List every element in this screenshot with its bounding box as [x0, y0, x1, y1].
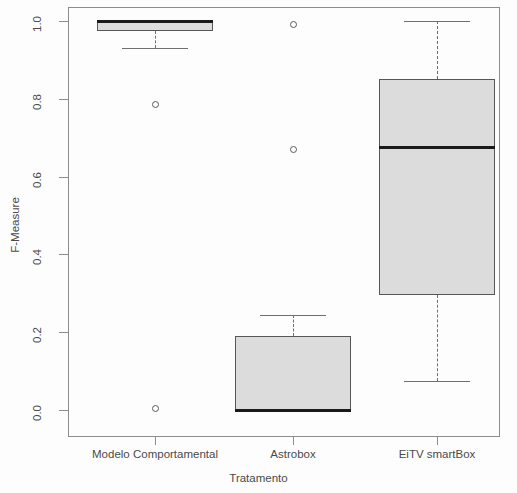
outlier-point [152, 405, 159, 412]
y-axis-tick [59, 254, 68, 255]
x-axis-tick [293, 437, 294, 445]
x-axis-title: Tratamento [0, 472, 517, 484]
boxplot-screenshot: F-Measure 1.00.80.60.40.20.0 Modelo Comp… [0, 0, 517, 493]
upper-whisker-cap [404, 21, 470, 22]
upper-whisker-cap [260, 315, 326, 316]
y-axis-tick-label-text: 0.2 [31, 327, 43, 343]
lower-whisker-cap [404, 381, 470, 382]
y-axis-tick [59, 21, 68, 22]
y-axis-tick-label-text: 0.0 [31, 405, 43, 421]
y-axis-tick [59, 99, 68, 100]
lower-whisker-line [155, 31, 156, 49]
y-axis-tick-label-text: 0.4 [31, 249, 43, 265]
median-line [235, 409, 351, 412]
x-axis-tick [437, 437, 438, 445]
x-axis-tick [155, 437, 156, 445]
y-axis-tick-label: 1.0 [22, 14, 52, 28]
y-axis-tick-label: 0.6 [22, 170, 52, 184]
outlier-point [290, 146, 297, 153]
outlier-point [152, 101, 159, 108]
x-axis-tick-label: Astrobox [270, 448, 315, 460]
outlier-point [290, 21, 297, 28]
y-axis-tick-label: 0.4 [22, 247, 52, 261]
lower-whisker-line [437, 295, 438, 381]
y-axis-tick-label: 0.8 [22, 92, 52, 106]
y-axis-tick [59, 177, 68, 178]
upper-whisker-line [437, 21, 438, 79]
y-axis-tick-label-text: 0.6 [31, 172, 43, 188]
x-axis-tick-label: Modelo Comportamental [92, 448, 218, 460]
y-axis-tick-label: 0.2 [22, 325, 52, 339]
y-axis-tick-label-text: 0.8 [31, 94, 43, 110]
box-rectangle [379, 79, 495, 295]
y-axis-tick [59, 332, 68, 333]
box-rectangle [235, 336, 351, 410]
lower-whisker-cap [122, 48, 188, 49]
median-line [97, 20, 213, 23]
y-axis-tick-label-text: 1.0 [31, 16, 43, 32]
y-axis-tick [59, 410, 68, 411]
y-axis-tick-label: 0.0 [22, 403, 52, 417]
median-line [379, 146, 495, 149]
upper-whisker-line [293, 315, 294, 336]
x-axis-tick-label: EiTV smartBox [399, 448, 476, 460]
y-axis-title-text: F-Measure [9, 197, 21, 253]
